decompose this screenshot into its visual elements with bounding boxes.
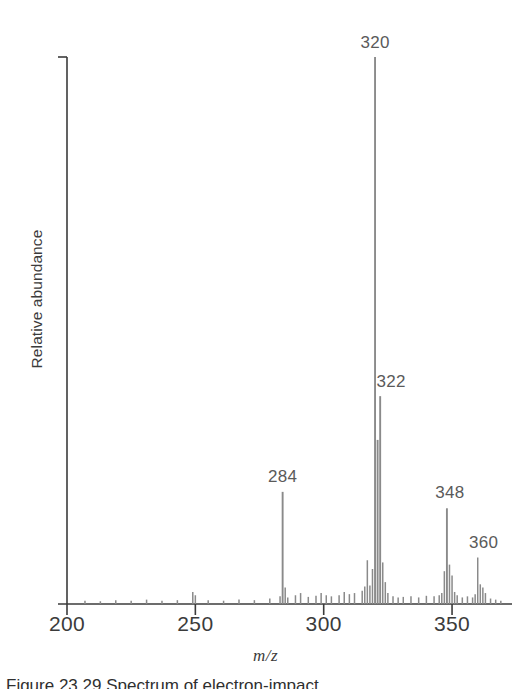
spectrum-peaks [85, 57, 501, 604]
y-axis-title: Relative abundance [28, 199, 46, 399]
x-tick-label-300: 300 [289, 612, 359, 636]
chart-plot-area [0, 0, 531, 689]
peak-annotation-348: 348 [420, 483, 480, 503]
peak-annotation-322: 322 [361, 372, 421, 392]
x-tick-label-350: 350 [417, 612, 487, 636]
x-tick-label-250: 250 [160, 612, 230, 636]
peak-annotation-320: 320 [345, 33, 405, 53]
peak-annotation-360: 360 [454, 533, 514, 553]
peak-annotation-284: 284 [253, 467, 313, 487]
mass-spectrum-figure: Relative abundance 200 250 300 350 m/z 3… [0, 0, 531, 689]
chart-axes [58, 57, 512, 615]
x-tick-label-200: 200 [32, 612, 102, 636]
x-axis-title: m/z [0, 646, 531, 666]
figure-caption: Figure 23.29 Spectrum of electron-impact [6, 676, 526, 689]
spectrum-svg [0, 0, 531, 689]
